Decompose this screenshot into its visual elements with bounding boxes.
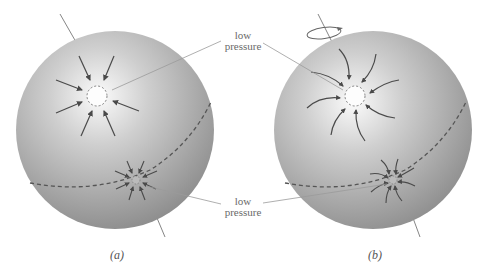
low-pressure-zone-top-b <box>345 86 365 106</box>
rotation-axis-bottom <box>413 218 420 237</box>
sphere-b <box>274 31 472 229</box>
label-line: pressure <box>218 41 268 52</box>
low-pressure-zone-bottom-a <box>132 176 140 184</box>
low-pressure-zone-bottom-b <box>389 176 397 184</box>
rotation-axis-top <box>60 14 76 42</box>
rotation-axis-top <box>318 14 333 44</box>
rotation-axis-bottom <box>157 218 165 237</box>
sphere-a <box>16 31 214 229</box>
low-pressure-label-top: low pressure <box>218 30 268 52</box>
caption-b: (b) <box>368 248 382 263</box>
label-line: pressure <box>218 207 268 218</box>
panel-b <box>274 14 472 237</box>
panel-a <box>16 14 214 237</box>
caption-a: (a) <box>110 248 124 263</box>
low-pressure-label-bottom: low pressure <box>218 196 268 218</box>
low-pressure-zone-top-a <box>87 86 107 106</box>
